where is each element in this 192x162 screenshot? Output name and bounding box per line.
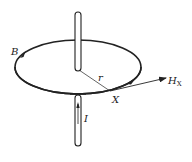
label-x: X bbox=[111, 94, 120, 105]
hx-vector-arrow bbox=[110, 78, 166, 91]
field-direction-arrow-right-icon bbox=[127, 78, 136, 85]
label-i: I bbox=[83, 113, 89, 124]
field-direction-arrow-icon bbox=[20, 51, 26, 59]
upper-conductor bbox=[75, 12, 81, 71]
label-b: B bbox=[10, 46, 18, 57]
label-r: r bbox=[98, 72, 104, 83]
radius-line bbox=[79, 70, 110, 91]
label-hx: HX bbox=[167, 75, 182, 88]
magnetic-field-diagram: B r X HX I bbox=[0, 0, 192, 162]
